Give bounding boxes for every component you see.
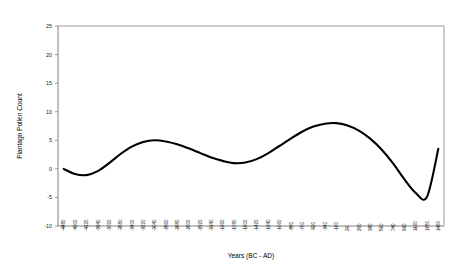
y-tick-label: 0 [49,166,52,172]
x-tick-label: -3040 [152,219,157,231]
x-tick-label: -4300 [73,219,78,231]
x-tick-label: -3760 [107,219,112,231]
data-series-group [64,123,439,200]
x-tick-label: 1460 [436,220,441,231]
y-tick-label: 25 [46,23,52,29]
x-tick-label: 560 [379,223,384,231]
x-axis-title: Years (BC - AD) [228,252,275,260]
x-tick-label: -3940 [96,219,101,231]
x-tick-label: -1240 [266,219,271,231]
x-tick-label: -1060 [277,219,282,231]
x-tick-label: -3580 [118,219,123,231]
y-tick-label: 5 [49,137,52,143]
chart-svg: 2520151050-5-10 -4480-4300-4120-3940-376… [0,0,462,270]
x-tick-label: -700 [300,221,305,231]
y-tick-label: 10 [46,109,52,115]
x-tick-label: -4120 [84,219,89,231]
x-tick-label: -2680 [175,219,180,231]
x-tick-label: -2140 [209,219,214,231]
x-tick-label: -4480 [61,219,66,231]
x-tick-label: 920 [402,223,407,231]
y-tick-group: 2520151050-5-10 [44,23,58,229]
x-tick-label: 20 [345,225,350,231]
x-tick-label: -2320 [198,219,203,231]
y-tick-label: 15 [46,80,52,86]
x-tick-group: -4480-4300-4120-3940-3760-3580-3400-3220… [61,219,441,231]
x-tick-label: 740 [391,223,396,231]
x-tick-label: -880 [289,221,294,231]
x-tick-label: -520 [311,221,316,231]
pollen-curve [64,123,439,200]
y-tick-label: 20 [46,52,52,58]
y-axis-group: 2520151050-5-10 [44,23,58,229]
pollen-count-chart: 2520151050-5-10 -4480-4300-4120-3940-376… [0,0,462,270]
x-tick-label: 380 [368,223,373,231]
x-tick-label: -1420 [254,219,259,231]
x-tick-label: 1100 [413,221,418,231]
y-tick-label: -10 [44,223,52,229]
y-tick-label: -5 [47,194,52,200]
y-axis-title: Plantago Pollen Count [16,93,24,159]
x-tick-label: -1960 [220,219,225,231]
x-tick-label: -340 [323,221,328,231]
x-tick-label: -1600 [243,219,248,231]
x-axis-group: -4480-4300-4120-3940-3760-3580-3400-3220… [58,26,444,231]
x-tick-label: -3400 [130,219,135,231]
x-tick-label: -160 [334,221,339,231]
x-tick-label: 1280 [425,220,430,231]
x-tick-label: 200 [357,223,362,231]
x-tick-label: -3220 [141,219,146,231]
x-tick-label: -2500 [186,219,191,231]
x-tick-label: -2860 [164,219,169,231]
x-tick-label: -1780 [232,219,237,231]
